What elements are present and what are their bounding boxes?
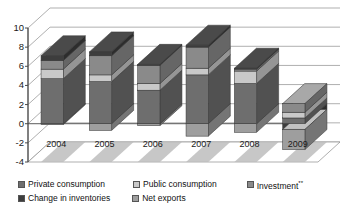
legend-swatch-icon	[18, 195, 25, 202]
y-tick-label: 2	[2, 100, 24, 110]
legend-swatch-icon	[247, 181, 254, 188]
legend-item-private-consumption[interactable]: Private consumption	[18, 180, 105, 189]
legend-item-label: Investment**	[257, 179, 303, 191]
y-tick-label: 6	[2, 61, 24, 71]
chart-legend: Private consumptionPublic consumptionInv…	[0, 176, 350, 215]
y-tick-label: 10	[2, 23, 24, 33]
x-tick-label-2009: 2009	[278, 139, 318, 149]
x-tick-label-2006: 2006	[133, 139, 173, 149]
legend-item-change-in-inventories[interactable]: Change in inventories	[18, 194, 110, 203]
x-tick-label-2005: 2005	[85, 139, 125, 149]
y-tick-label: 0	[2, 119, 24, 129]
bar-2007	[186, 25, 230, 136]
y-tick-label: 4	[2, 80, 24, 90]
y-tick-label: -2	[2, 138, 24, 148]
chart-container: 1086420-2-4 200420052006200720082009 Pri…	[0, 0, 350, 215]
legend-footnote-marker: **	[298, 180, 303, 186]
legend-swatch-icon	[133, 181, 140, 188]
legend-swatch-icon	[18, 181, 25, 188]
legend-item-investment[interactable]: Investment**	[247, 179, 303, 191]
y-tick-label: -4	[2, 157, 24, 167]
legend-item-label: Change in inventories	[28, 194, 110, 203]
chart-svg	[0, 0, 350, 178]
bar-2005	[89, 32, 133, 130]
plot-area	[0, 0, 350, 178]
x-tick-label-2007: 2007	[181, 139, 221, 149]
legend-row-2: Change in inventoriesNet exports	[18, 192, 186, 205]
x-tick-label-2008: 2008	[230, 139, 270, 149]
legend-item-label: Net exports	[142, 194, 185, 203]
x-tick-label-2004: 2004	[36, 139, 76, 149]
legend-row-1: Private consumptionPublic consumptionInv…	[18, 178, 303, 191]
y-tick-label: 8	[2, 42, 24, 52]
legend-item-label: Public consumption	[143, 180, 217, 189]
legend-item-label: Private consumption	[28, 180, 105, 189]
legend-swatch-icon	[132, 195, 139, 202]
legend-item-public-consumption[interactable]: Public consumption	[133, 180, 217, 189]
legend-item-net-exports[interactable]: Net exports	[132, 194, 185, 203]
